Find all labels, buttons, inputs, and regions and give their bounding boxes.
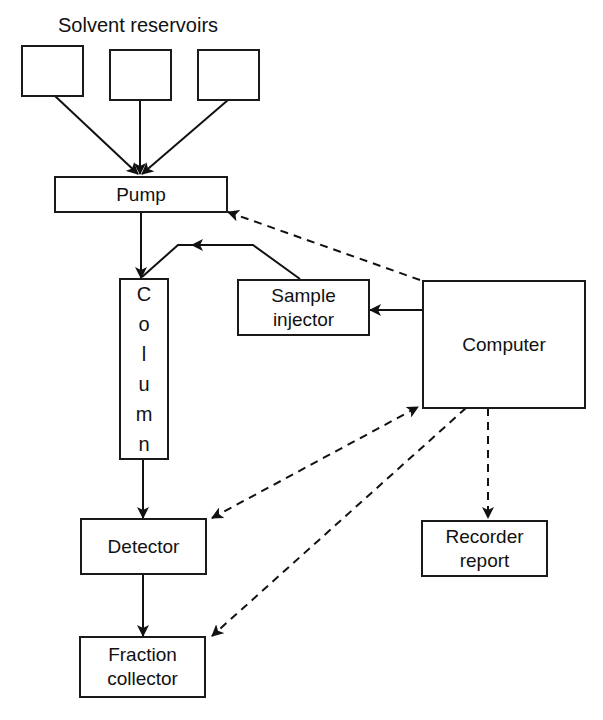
recorder-label-1: Recorder xyxy=(445,525,523,549)
sample-injector-label-1: Sample xyxy=(271,284,335,308)
detector-box: Detector xyxy=(80,518,207,575)
sample-injector-box: Sample injector xyxy=(237,279,370,336)
column-letter: m xyxy=(136,399,153,429)
column-letter: n xyxy=(138,429,149,459)
dashed-detector-computer xyxy=(212,407,418,518)
computer-box: Computer xyxy=(422,280,586,409)
column-letter: u xyxy=(138,369,149,399)
column-letter: C xyxy=(137,279,151,309)
fraction-collector-box: Fraction collector xyxy=(79,636,206,698)
column-letter: o xyxy=(138,309,149,339)
column-letter: l xyxy=(142,339,146,369)
recorder-report-box: Recorder report xyxy=(421,520,548,577)
recorder-label-2: report xyxy=(460,549,510,573)
dashed-computer-pump xyxy=(228,212,420,280)
column-box: C o l u m n xyxy=(119,278,169,460)
arrow-reservoir1-pump xyxy=(55,96,138,174)
reservoir-2 xyxy=(109,49,172,101)
pump-box: Pump xyxy=(54,176,228,213)
sample-injector-label-2: injector xyxy=(273,308,334,332)
reservoir-3 xyxy=(197,49,260,101)
reservoir-1 xyxy=(21,45,84,97)
fraction-label-2: collector xyxy=(107,667,178,691)
arrow-reservoir3-pump xyxy=(142,100,228,174)
fraction-label-1: Fraction xyxy=(108,643,177,667)
diagram-title: Solvent reservoirs xyxy=(58,14,218,37)
line-injector-column xyxy=(142,245,300,279)
